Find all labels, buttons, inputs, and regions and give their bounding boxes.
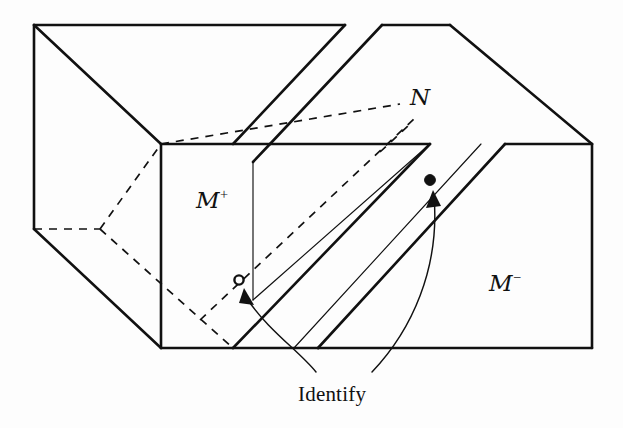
right-block-outline [233, 25, 592, 348]
arrow-curve-to-filled-point [372, 196, 435, 372]
label-n-surface: N [410, 86, 430, 109]
arrowhead-filled-point [426, 190, 441, 208]
label-m-plus-exponent: + [220, 186, 228, 202]
dashed-interior-diagonal [100, 229, 233, 348]
diagram-canvas [0, 0, 623, 428]
left-block-outline [34, 25, 430, 348]
edge-right-front-diagonal [318, 144, 505, 348]
dashed-notch-continuation [380, 124, 410, 152]
arrowhead-open-point [239, 288, 254, 305]
slot-interior-folds [253, 144, 481, 348]
edge-notch-upper-left [233, 25, 345, 144]
fold-line-slot-left [253, 144, 430, 300]
edge-left-lower-diagonal [34, 229, 161, 348]
fold-line-slot-right [294, 144, 481, 348]
dashed-top-face-diagonal [161, 104, 400, 144]
open-circle-marker [234, 275, 243, 284]
label-m-plus-base: M [196, 187, 220, 213]
arrow-curve-to-open-point [248, 300, 316, 372]
label-m-plus: M+ [196, 187, 228, 212]
edge-slot-outer-lip [253, 144, 270, 162]
filled-dot-marker [425, 175, 436, 186]
label-m-minus: M− [489, 270, 521, 295]
label-m-minus-base: M [489, 270, 513, 296]
dashed-back-rise [100, 144, 161, 229]
label-n-text: N [410, 84, 430, 110]
edge-right-upper-diagonal [450, 25, 592, 144]
edge-left-top-front-diagonal [34, 25, 161, 144]
label-identify: Identify [298, 384, 366, 405]
manifold-identification-figure: M+ M− N Identify [0, 0, 623, 428]
edge-notch-front-wall [233, 144, 430, 348]
label-m-minus-exponent: − [513, 269, 521, 285]
hidden-edges [34, 104, 415, 348]
edge-right-top-left-diagonal [270, 25, 382, 144]
